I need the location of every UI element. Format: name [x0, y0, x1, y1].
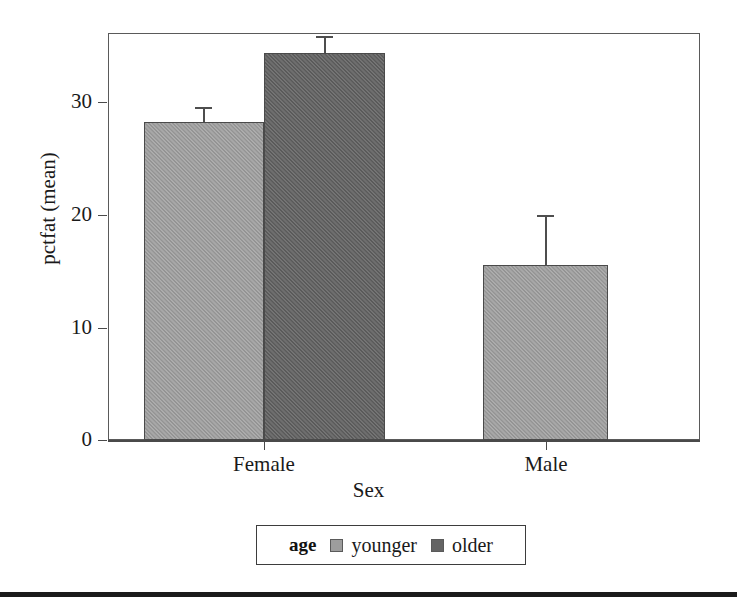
legend-label-older: older [452, 534, 493, 557]
error-bar-cap-female-younger [195, 107, 212, 109]
legend-entry-younger[interactable]: younger [330, 534, 417, 557]
footer-rule [0, 592, 737, 597]
y-tick-mark-10 [98, 328, 107, 329]
y-tick-mark-30 [98, 102, 107, 103]
x-axis-title: Sex [0, 478, 737, 503]
bar-female-younger[interactable] [144, 122, 264, 440]
error-bar-male-younger [545, 215, 547, 265]
y-tick-mark-0 [98, 440, 107, 441]
legend-swatch-younger-icon [330, 539, 343, 552]
x-tick-mark-male [546, 441, 547, 450]
x-tick-label-female: Female [204, 452, 324, 477]
legend: age younger older [256, 525, 526, 565]
legend-entry-older[interactable]: older [431, 534, 493, 557]
bar-female-older[interactable] [264, 53, 385, 440]
plot-area [108, 33, 700, 440]
y-tick-mark-20 [98, 215, 107, 216]
y-tick-label-30: 30 [58, 91, 92, 112]
bar-chart-figure: pctfat (mean) 30 20 10 0 Female Male Sex… [0, 0, 737, 607]
error-bar-female-younger [203, 107, 205, 122]
error-bar-cap-female-older [316, 36, 333, 38]
y-axis-title: pctfat (mean) [36, 99, 61, 319]
x-tick-mark-female [264, 441, 265, 450]
legend-title: age [289, 534, 316, 556]
x-axis-line [108, 440, 700, 442]
error-bar-female-older [324, 36, 326, 53]
legend-swatch-older-icon [431, 539, 444, 552]
y-tick-label-20: 20 [58, 204, 92, 225]
legend-label-younger: younger [351, 534, 417, 557]
x-tick-label-male: Male [486, 452, 606, 477]
y-tick-label-10: 10 [58, 317, 92, 338]
y-tick-label-0: 0 [58, 429, 92, 450]
error-bar-cap-male-younger [537, 215, 554, 217]
bar-male-younger[interactable] [483, 265, 608, 440]
